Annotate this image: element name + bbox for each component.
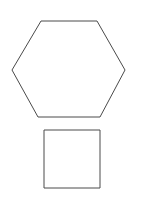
shapes-svg <box>0 0 144 199</box>
shape-diagram-canvas <box>0 0 144 199</box>
canvas-background <box>0 0 144 199</box>
